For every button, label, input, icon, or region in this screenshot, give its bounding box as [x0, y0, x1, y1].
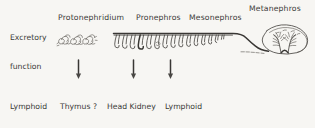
label-pronephros: Pronephros [136, 13, 181, 22]
arrow-thymus-icon [76, 60, 81, 79]
excretory-function-line1: Excretory [10, 33, 47, 43]
bottom-column-head-kidney: Head Kidney (Teleosts) Pronephros (Myxin… [107, 82, 156, 128]
bottom-column-lymphoid-mesonephros: Lymphoid Mesonephros (Teleosts) [165, 82, 216, 128]
label-mesonephros: Mesonephros [189, 13, 242, 22]
excretory-function-label: Excretory function [10, 13, 47, 91]
label-protonephridium: Protonephridium [58, 13, 124, 22]
lymphoid-function-line1: Lymphoid [10, 102, 47, 112]
arrow-lymphoid-mesonephros-icon [168, 60, 173, 79]
arrow-headkidney-icon [131, 60, 136, 79]
thymus-line: Thymus ? [60, 102, 97, 112]
bottom-column-thymus-tonsils: Thymus ? Tonsils? [60, 82, 97, 128]
lymphoid-meso-line1: Lymphoid [165, 102, 216, 112]
excretory-function-line2: function [10, 62, 47, 72]
lymphoid-function-label: Lymphoid function [10, 82, 47, 128]
label-metanephros: Metanephros [249, 4, 301, 13]
excretory-lymphoid-function-figure: Excretory function Protonephridium Prone… [0, 0, 315, 128]
head-kidney-line: Head Kidney [107, 102, 156, 112]
